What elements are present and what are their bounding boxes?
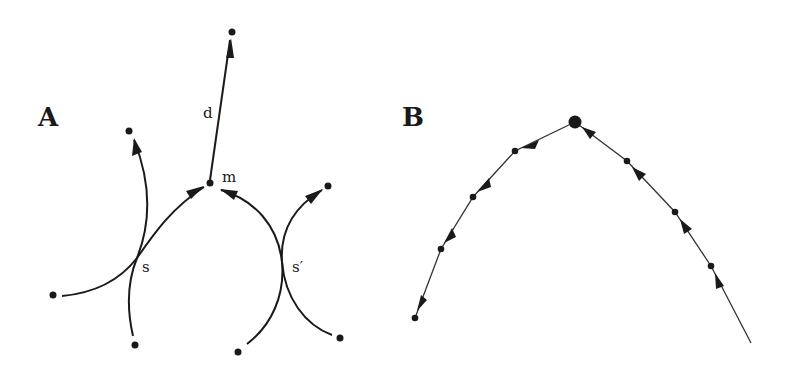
trajectory-right [575, 122, 751, 343]
arrow-head-icon [305, 189, 323, 204]
trajectory-s-to-m [50, 186, 205, 299]
trajectory-s-branch [126, 128, 148, 349]
node-right-1 [624, 158, 631, 165]
node-end-4 [325, 183, 332, 190]
label-s: s [142, 258, 150, 276]
node-apex [569, 116, 582, 129]
node-left-3 [438, 246, 445, 253]
trajectory-left [415, 122, 575, 318]
node-start-3 [235, 349, 242, 356]
label-m: m [222, 168, 236, 186]
arrow-head-icon [417, 140, 539, 311]
node-left-4 [412, 315, 419, 322]
node-start-1 [50, 292, 57, 299]
node-m [207, 180, 214, 187]
panel-a: A d m s [37, 29, 344, 356]
node-end-2 [126, 128, 133, 135]
vector-d [210, 29, 236, 181]
node-right-3 [708, 263, 715, 270]
node-start-2 [132, 342, 139, 349]
label-d: d [203, 104, 213, 122]
panel-a-label: A [37, 102, 59, 132]
figure: A d m s [0, 0, 793, 373]
arrow-head-icon [220, 189, 238, 200]
panel-b: B [402, 102, 751, 343]
panel-b-label: B [402, 102, 424, 132]
label-s-prime: s′ [292, 258, 304, 276]
trajectory-s-prime-to-m [220, 189, 282, 356]
node-start-4 [337, 335, 344, 342]
node-d-end [229, 29, 236, 36]
node-right-2 [672, 209, 679, 216]
arrow-head-icon [582, 127, 724, 289]
node-left-1 [512, 148, 519, 155]
node-left-2 [470, 194, 477, 201]
